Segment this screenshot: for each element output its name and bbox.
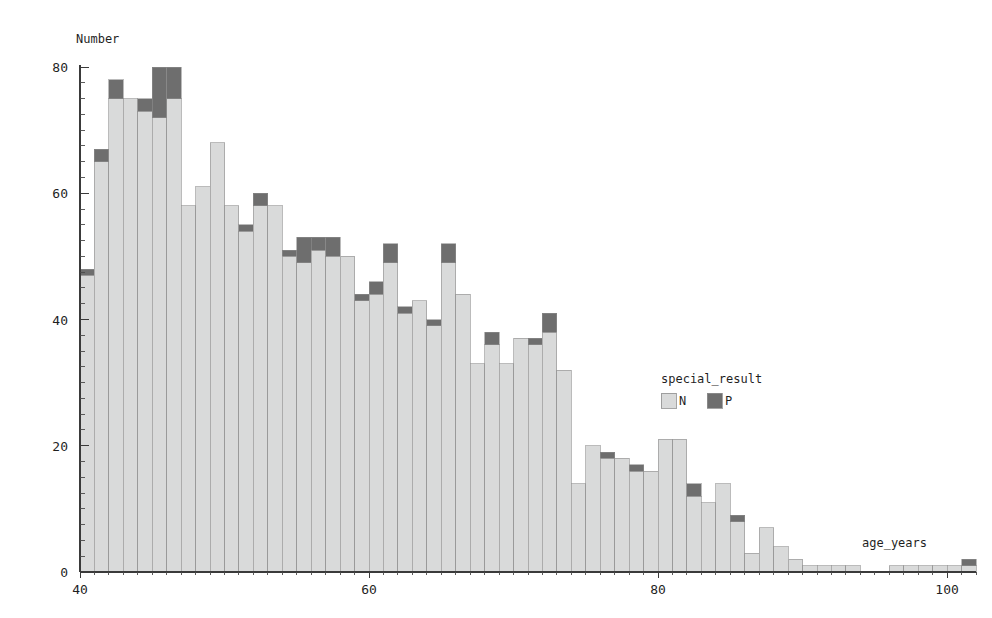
bar-segment-n [889, 566, 903, 572]
bar-segment-n [701, 503, 715, 572]
plot-area: 020406080406080100Numberage_years specia… [0, 0, 992, 618]
bar-segment-n [239, 231, 253, 572]
bar-segment-n [297, 263, 311, 572]
bar-segment-p [600, 452, 614, 458]
x-tick-label: 80 [650, 582, 666, 597]
bar-segment-n [412, 301, 426, 572]
bar-segment-p [398, 307, 412, 313]
bar-segment-n [759, 528, 773, 572]
bar-segment-n [644, 471, 658, 572]
histogram-bar [701, 503, 715, 572]
histogram-bar [629, 465, 643, 572]
bar-segment-n [441, 263, 455, 572]
histogram-bar [311, 237, 325, 572]
bar-segment-p [383, 244, 397, 263]
histogram-bar [759, 528, 773, 572]
histogram-bar [470, 364, 484, 572]
histogram-bar [788, 559, 802, 572]
bar-segment-n [94, 162, 108, 572]
histogram-bar [152, 67, 166, 572]
histogram-bar [557, 370, 571, 572]
histogram-bar [889, 566, 903, 572]
bar-segment-n [962, 566, 976, 572]
bar-segment-n [427, 326, 441, 572]
histogram-bar [745, 553, 759, 572]
bar-segment-n [673, 439, 687, 572]
bar-segment-n [831, 566, 845, 572]
histogram-bar [831, 566, 845, 572]
histogram-bar [94, 149, 108, 572]
bar-segment-p [730, 515, 744, 521]
bar-segment-p [355, 294, 369, 300]
bar-segment-p [542, 313, 556, 332]
histogram-bar [80, 269, 94, 572]
bar-segment-n [788, 559, 802, 572]
bar-segment-n [600, 458, 614, 572]
histogram-bar [225, 206, 239, 572]
bar-segment-n [586, 446, 600, 572]
histogram-bar [514, 338, 528, 572]
histogram-bar [441, 244, 455, 572]
histogram-chart: 020406080406080100Numberage_years specia… [0, 0, 992, 618]
bar-segment-n [282, 256, 296, 572]
bar-segment-n [253, 206, 267, 572]
bar-segment-n [904, 566, 918, 572]
y-tick-label: 60 [52, 186, 68, 201]
bar-segment-n [268, 206, 282, 572]
legend-label-p: P [725, 394, 732, 408]
histogram-bar [673, 439, 687, 572]
histogram-bar [196, 187, 210, 572]
histogram-bar [586, 446, 600, 572]
bar-segment-n [109, 99, 123, 572]
bar-segment-p [326, 237, 340, 256]
legend-swatch-p[interactable] [707, 393, 722, 408]
bar-segment-p [311, 237, 325, 250]
x-axis-title: age_years [862, 536, 927, 550]
histogram-bar [427, 320, 441, 573]
bar-segment-n [138, 111, 152, 572]
bar-segment-p [253, 193, 267, 206]
bar-segment-n [167, 99, 181, 572]
y-tick-label: 0 [60, 565, 68, 580]
bar-segment-n [687, 496, 701, 572]
bar-segment-n [181, 206, 195, 572]
histogram-bar [383, 244, 397, 572]
bar-segment-n [817, 566, 831, 572]
bar-segment-n [123, 99, 137, 572]
histogram-bar [687, 484, 701, 572]
bar-segment-n [152, 118, 166, 573]
legend-label-n: N [679, 394, 686, 408]
bar-segment-n [774, 547, 788, 572]
histogram-bar [355, 294, 369, 572]
bar-segment-n [514, 338, 528, 572]
bar-segment-n [311, 250, 325, 572]
bar-segment-n [485, 345, 499, 572]
histogram-bar [123, 99, 137, 572]
histogram-bar [716, 484, 730, 572]
bar-segment-n [528, 345, 542, 572]
bar-segment-p [138, 99, 152, 112]
bar-segment-n [326, 256, 340, 572]
bar-segment-n [716, 484, 730, 572]
histogram-bar [933, 566, 947, 572]
histogram-bar [644, 471, 658, 572]
histogram-bar [167, 67, 181, 572]
histogram-bar [600, 452, 614, 572]
histogram-bar [253, 193, 267, 572]
bar-segment-n [340, 256, 354, 572]
bar-segment-p [441, 244, 455, 263]
bar-segment-n [398, 313, 412, 572]
y-axis-title: Number [76, 32, 119, 46]
histogram-bar [456, 294, 470, 572]
bar-segment-n [615, 458, 629, 572]
legend-swatch-n[interactable] [661, 393, 676, 408]
histogram-bar [528, 338, 542, 572]
bar-segment-n [383, 263, 397, 572]
histogram-bar [210, 143, 224, 572]
histogram-bar [268, 206, 282, 572]
bar-segment-p [485, 332, 499, 345]
bar-segment-n [933, 566, 947, 572]
bar-segment-n [629, 471, 643, 572]
bar-segment-n [196, 187, 210, 572]
histogram-bar [412, 301, 426, 572]
